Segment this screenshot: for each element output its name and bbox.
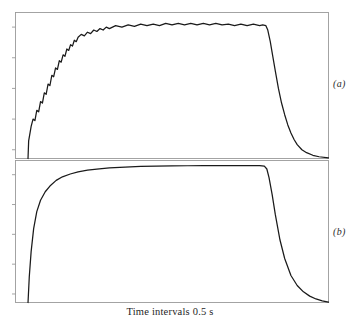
data-curve: [28, 23, 328, 158]
x-axis-label: Time intervals 0.5 s: [0, 306, 340, 317]
panel-b: [12, 161, 329, 303]
panel-a-label: (a): [333, 78, 346, 89]
two-panel-line-chart: [0, 0, 363, 327]
figure-container: (a) (b) Time intervals 0.5 s: [0, 0, 363, 327]
panel-b-label: (b): [333, 226, 346, 237]
plot-frame: [16, 161, 329, 303]
panel-a: [12, 13, 329, 159]
plot-frame: [16, 13, 329, 159]
data-curve: [28, 166, 328, 303]
